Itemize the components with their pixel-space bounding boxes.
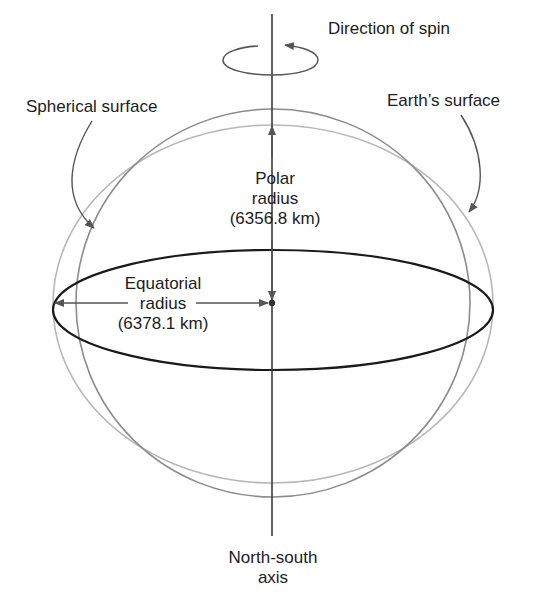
north-south-axis-label-line1: North-south: [229, 548, 318, 568]
equatorial-radius-label-line2: radius: [138, 294, 188, 314]
earths-surface-label: Earth’s surface: [387, 91, 500, 111]
north-south-axis-label-line2: axis: [229, 568, 318, 588]
spin-direction-arrow: [223, 45, 318, 75]
polar-radius-label: Polar radius (6356.8 km): [230, 169, 321, 229]
spherical-surface-leader: [72, 121, 94, 228]
polar-radius-label-line1: Polar: [230, 169, 321, 189]
earth-center-dot: [269, 300, 275, 306]
equatorial-radius-value: (6378.1 km): [118, 314, 209, 334]
equatorial-radius-label: Equatorial radius (6378.1 km): [118, 274, 209, 334]
north-south-axis-label: North-south axis: [229, 548, 318, 588]
polar-radius-label-line2: radius: [230, 189, 321, 209]
spherical-surface-label: Spherical surface: [26, 97, 157, 117]
polar-radius-value: (6356.8 km): [230, 209, 321, 229]
earths-surface-leader: [461, 115, 480, 212]
direction-of-spin-label: Direction of spin: [328, 19, 450, 39]
equatorial-radius-label-line1: Equatorial: [118, 274, 209, 294]
